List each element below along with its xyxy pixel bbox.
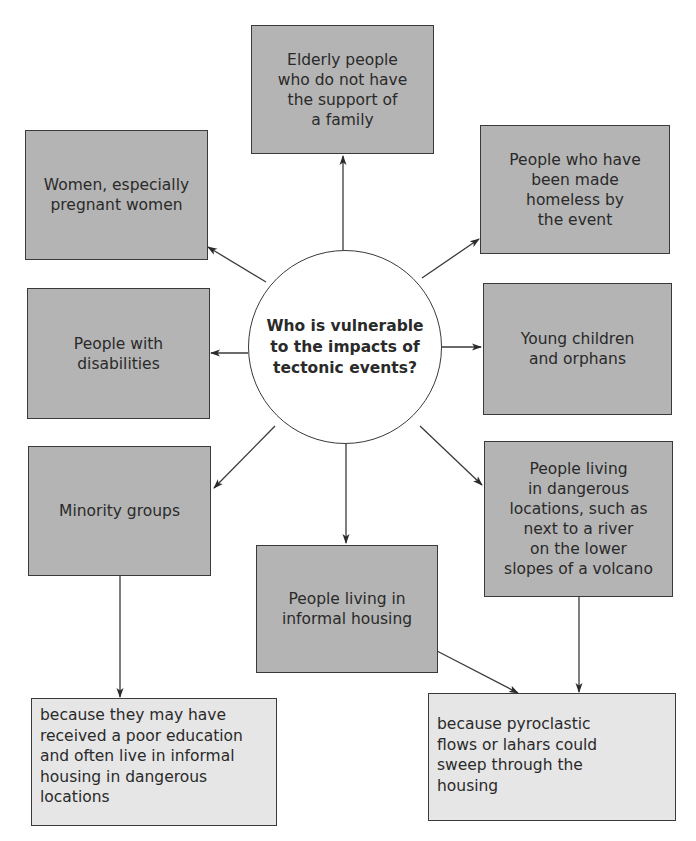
group-box-informal-housing: People living in informal housing (256, 545, 438, 673)
arrow-to-dangerous-locations (420, 426, 482, 485)
group-box-women: Women, especially pregnant women (25, 130, 208, 260)
group-box-elderly: Elderly people who do not have the suppo… (251, 25, 434, 154)
arrow-to-minority (214, 426, 275, 488)
explanation-text-minority: because they may have received a poor ed… (40, 705, 243, 808)
group-label-dangerous-locations: People living in dangerous locations, su… (504, 459, 653, 579)
group-box-minority: Minority groups (28, 446, 211, 576)
explanation-text-housing: because pyroclastic flows or lahars coul… (437, 714, 597, 796)
central-question: Who is vulnerable to the impacts of tect… (248, 250, 442, 444)
group-label-minority: Minority groups (59, 501, 180, 521)
arrow-to-women (208, 247, 266, 282)
group-label-informal-housing: People living in informal housing (282, 589, 412, 629)
explanation-box-housing: because pyroclastic flows or lahars coul… (428, 693, 676, 821)
group-label-disabilities: People with disabilities (74, 334, 163, 374)
group-box-disabilities: People with disabilities (27, 288, 210, 419)
arrow-to-homeless (422, 239, 479, 278)
group-label-children: Young children and orphans (521, 329, 635, 369)
group-label-women: Women, especially pregnant women (44, 175, 189, 215)
group-label-homeless: People who have been made homeless by th… (509, 150, 640, 230)
group-box-dangerous-locations: People living in dangerous locations, su… (484, 441, 673, 597)
central-question-text: Who is vulnerable to the impacts of tect… (266, 316, 423, 379)
arrow-informal-housing-to-reason (437, 651, 518, 693)
group-box-homeless: People who have been made homeless by th… (480, 125, 670, 254)
group-box-children: Young children and orphans (483, 283, 672, 415)
explanation-box-minority: because they may have received a poor ed… (31, 698, 277, 826)
group-label-elderly: Elderly people who do not have the suppo… (278, 50, 408, 130)
